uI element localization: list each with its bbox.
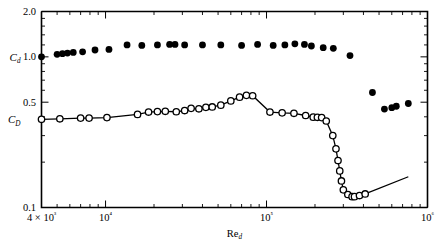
data-point xyxy=(279,110,285,116)
y-tick-label: 0.5 xyxy=(23,97,36,108)
x-axis-title: Red xyxy=(227,228,243,240)
y-tick-label: 2.0 xyxy=(23,6,36,17)
x-tick-label: 10⁶ xyxy=(421,211,435,223)
data-point xyxy=(181,107,187,113)
x-tick-label: 10⁵ xyxy=(260,211,274,223)
series-markers xyxy=(38,40,412,199)
data-point xyxy=(267,109,273,115)
x-tick-label: 10⁴ xyxy=(99,211,113,223)
data-point xyxy=(308,43,315,50)
y-axis-tick-labels: 2.01.00.50.1 xyxy=(23,6,36,213)
series-label-cd-lower: Cd xyxy=(10,51,21,66)
data-point xyxy=(199,42,206,49)
data-point xyxy=(291,110,297,116)
drag-coefficient-chart: 4 × 10³10⁴10⁵10⁶ 2.01.00.50.1 CdCD Red xyxy=(0,0,437,240)
data-point xyxy=(381,106,388,113)
data-point xyxy=(196,106,202,112)
data-point xyxy=(38,53,45,60)
data-point xyxy=(335,157,341,163)
data-point xyxy=(154,42,161,49)
chart-canvas: 4 × 10³10⁴10⁵10⁶ 2.01.00.50.1 CdCD Red xyxy=(0,0,437,240)
data-point xyxy=(106,46,113,53)
axis-ticks xyxy=(42,12,428,208)
data-point xyxy=(77,115,83,121)
data-point xyxy=(217,42,224,49)
axis-left-bottom xyxy=(42,12,428,208)
data-point xyxy=(405,100,412,107)
data-point xyxy=(92,47,99,54)
data-point xyxy=(238,42,245,49)
data-point xyxy=(181,42,188,49)
data-point xyxy=(249,93,255,99)
data-point xyxy=(362,191,368,197)
data-point xyxy=(38,116,44,122)
data-point xyxy=(104,114,110,120)
data-point xyxy=(393,103,400,110)
data-point xyxy=(218,102,224,108)
data-point xyxy=(330,45,337,52)
data-point xyxy=(369,89,376,96)
data-point xyxy=(281,42,288,49)
data-point xyxy=(70,49,77,56)
data-point xyxy=(124,42,131,49)
data-point xyxy=(323,118,329,124)
series-lines xyxy=(42,95,409,196)
axes-frame xyxy=(42,12,428,208)
data-point xyxy=(337,168,343,174)
data-point xyxy=(338,178,344,184)
series-label-cd-upper: CD xyxy=(8,113,21,128)
y-tick-label: 0.1 xyxy=(23,202,36,213)
data-point xyxy=(347,52,354,59)
data-point xyxy=(172,41,179,48)
data-point xyxy=(228,98,234,104)
data-point xyxy=(236,94,242,100)
data-point xyxy=(291,40,298,47)
series-C-d xyxy=(38,40,412,112)
data-point xyxy=(320,44,327,51)
series-inline-labels: CdCD xyxy=(8,51,21,128)
data-point xyxy=(302,112,308,118)
data-point xyxy=(209,104,215,110)
data-point xyxy=(243,92,249,98)
x-axis-label: Red xyxy=(227,228,243,240)
data-point xyxy=(79,48,86,55)
data-point xyxy=(86,115,92,121)
data-point xyxy=(64,50,71,57)
data-point xyxy=(330,132,336,138)
data-point xyxy=(203,104,209,110)
data-point xyxy=(333,146,339,152)
data-point xyxy=(162,108,168,114)
x-axis-tick-labels: 4 × 10³10⁴10⁵10⁶ xyxy=(27,211,435,223)
series-line-C-D xyxy=(42,95,366,196)
series-line-tail-line xyxy=(365,177,408,194)
data-point xyxy=(134,111,140,117)
axis-top-right xyxy=(42,12,428,208)
data-point xyxy=(301,41,308,48)
data-point xyxy=(173,109,179,115)
data-point xyxy=(145,109,151,115)
data-point xyxy=(138,42,145,49)
data-point xyxy=(57,116,63,122)
series-C-D xyxy=(38,92,368,200)
data-point xyxy=(154,108,160,114)
data-point xyxy=(254,41,261,48)
data-point xyxy=(270,42,277,49)
y-tick-label: 1.0 xyxy=(23,51,36,62)
data-point xyxy=(188,105,194,111)
